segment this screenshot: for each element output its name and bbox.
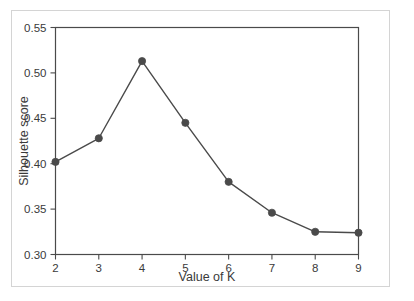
y-axis-ticks <box>51 28 56 255</box>
data-point-k-2 <box>52 158 59 165</box>
data-point-k-6 <box>225 178 232 185</box>
x-axis-ticks <box>56 255 359 260</box>
x-tick-label: 7 <box>269 262 275 274</box>
y-tick-label: 0.50 <box>24 67 46 79</box>
data-point-k-3 <box>95 135 102 142</box>
y-tick-label: 0.55 <box>24 22 46 34</box>
y-tick-label: 0.30 <box>24 249 46 261</box>
x-axis-title: Value of K <box>179 270 236 284</box>
x-tick-label: 3 <box>96 262 102 274</box>
data-point-k-7 <box>268 209 275 216</box>
data-point-k-5 <box>182 119 189 126</box>
data-point-k-9 <box>355 229 362 236</box>
data-point-k-8 <box>312 228 319 235</box>
x-tick-label: 2 <box>52 262 58 274</box>
x-tick-label: 9 <box>355 262 361 274</box>
chart-figure: 0.300.350.400.450.500.55 23456789 Value … <box>0 0 414 301</box>
line-chart: 0.300.350.400.450.500.55 23456789 Value … <box>0 0 414 301</box>
x-tick-label: 8 <box>312 262 318 274</box>
y-axis-title: Silhouette score <box>17 96 31 186</box>
y-tick-label: 0.35 <box>24 203 46 215</box>
x-tick-label: 4 <box>139 262 146 274</box>
data-point-k-4 <box>138 58 145 65</box>
